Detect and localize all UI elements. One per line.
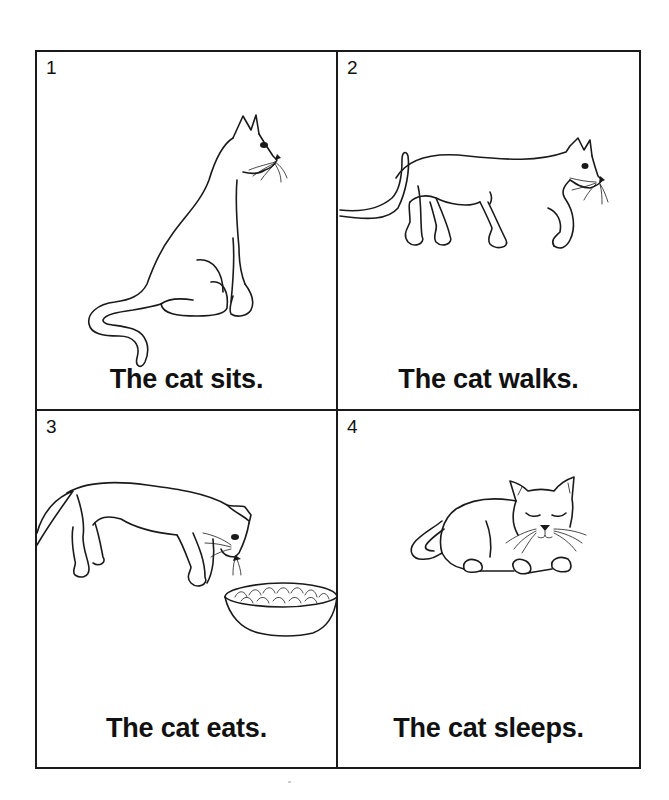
panel-1: 1 The cat sits. <box>37 52 338 411</box>
cat-sitting-illustration <box>37 52 338 411</box>
panel-2: 2 The cat w <box>338 52 639 411</box>
story-grid: 1 The cat sits. <box>35 50 641 769</box>
panel-caption: The cat sits. <box>37 364 336 395</box>
panel-4: 4 <box>338 411 639 767</box>
panel-caption: The cat walks. <box>338 364 639 395</box>
panel-3: 3 <box>37 411 338 767</box>
panel-caption: The cat sleeps. <box>338 713 639 744</box>
cat-walking-illustration <box>338 52 642 411</box>
panel-caption: The cat eats. <box>37 713 336 744</box>
scan-smudge <box>288 781 291 783</box>
